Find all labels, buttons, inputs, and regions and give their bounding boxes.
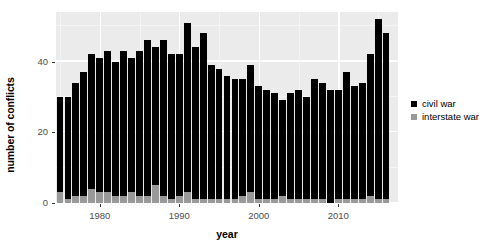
bar-segment-civil-war: [263, 90, 270, 200]
bar-group: [271, 93, 278, 203]
bar-segment-civil-war: [65, 97, 72, 200]
bar-segment-civil-war: [208, 65, 215, 199]
bar-segment-interstate-war: [136, 196, 143, 203]
bar-segment-civil-war: [327, 90, 334, 203]
bar-segment-civil-war: [184, 23, 191, 193]
bar-segment-interstate-war: [128, 192, 135, 203]
bar-segment-civil-war: [120, 51, 127, 196]
bar-group: [319, 83, 326, 203]
plot-panel: [56, 12, 398, 203]
legend-swatch-civil-war-key: [408, 98, 419, 109]
x-tick-mark: [338, 204, 339, 207]
bar-segment-interstate-war: [208, 199, 215, 203]
bar-segment-civil-war: [335, 90, 342, 200]
bar-group: [279, 100, 286, 203]
bar-segment-interstate-war: [120, 196, 127, 203]
bar-segment-civil-war: [319, 83, 326, 200]
bar-group: [224, 76, 231, 203]
y-tick-mark: [52, 203, 55, 204]
y-tick-mark: [52, 62, 55, 63]
bar-group: [359, 83, 366, 203]
bar-segment-civil-war: [144, 40, 151, 196]
y-axis-title: number of conflicts: [2, 0, 18, 250]
bar-segment-civil-war: [152, 47, 159, 185]
bar-segment-interstate-war: [319, 199, 326, 203]
bar-segment-interstate-war: [359, 199, 366, 203]
bar-segment-interstate-war: [200, 199, 207, 203]
bar-group: [263, 90, 270, 203]
bar-segment-interstate-war: [216, 199, 223, 203]
bar-group: [343, 72, 350, 203]
bar-segment-interstate-war: [152, 185, 159, 203]
bar-group: [200, 33, 207, 203]
bar-segment-interstate-war: [96, 192, 103, 203]
bar-segment-interstate-war: [232, 199, 239, 203]
legend: civil war interstate war: [408, 97, 496, 123]
bar-segment-interstate-war: [57, 192, 64, 203]
bar-segment-interstate-war: [255, 199, 262, 203]
bar-group: [96, 58, 103, 203]
bar-group: [295, 90, 302, 203]
bar-segment-civil-war: [168, 54, 175, 199]
bar-group: [232, 79, 239, 203]
x-tick-label: 1990: [154, 210, 204, 221]
x-tick-label: 2000: [234, 210, 284, 221]
bar-segment-civil-war: [351, 86, 358, 199]
bar-group: [120, 51, 127, 203]
bar-segment-civil-war: [136, 51, 143, 196]
bar-segment-civil-war: [128, 58, 135, 192]
bar-group: [351, 86, 358, 203]
bar-group: [160, 40, 167, 203]
bar-segment-interstate-war: [88, 189, 95, 203]
x-tick-label: 1980: [75, 210, 125, 221]
bar-group: [216, 69, 223, 203]
bar-segment-interstate-war: [295, 199, 302, 203]
bar-segment-civil-war: [383, 33, 390, 199]
legend-item-civil-war: civil war: [408, 97, 496, 110]
x-tick-label: 2010: [313, 210, 363, 221]
bar-segment-civil-war: [80, 72, 87, 196]
bar-segment-civil-war: [359, 83, 366, 200]
bar-segment-interstate-war: [287, 199, 294, 203]
bar-segment-civil-war: [176, 54, 183, 195]
y-tick-label: 20: [6, 126, 48, 137]
bar-segment-interstate-war: [72, 196, 79, 203]
bar-segment-interstate-war: [279, 196, 286, 203]
bar-segment-civil-war: [279, 100, 286, 196]
bar-segment-civil-war: [295, 90, 302, 200]
bar-group: [136, 51, 143, 203]
bar-segment-civil-war: [96, 58, 103, 192]
bar-segment-civil-war: [287, 93, 294, 199]
bar-group: [192, 47, 199, 203]
bar-group: [184, 23, 191, 203]
bar-segment-interstate-war: [104, 192, 111, 203]
bar-group: [176, 54, 183, 203]
bar-segment-interstate-war: [383, 199, 390, 203]
bar-segment-civil-war: [247, 65, 254, 192]
bar-segment-civil-war: [343, 72, 350, 199]
bar-segment-interstate-war: [303, 199, 310, 203]
bar-segment-interstate-war: [367, 196, 374, 203]
bar-group: [375, 19, 382, 203]
bar-segment-interstate-war: [224, 199, 231, 203]
bar-group: [88, 54, 95, 203]
x-tick-mark: [179, 204, 180, 207]
square-icon: [411, 114, 417, 120]
bar-segment-interstate-war: [239, 196, 246, 203]
bar-segment-interstate-war: [112, 196, 119, 203]
bar-segment-interstate-war: [271, 199, 278, 203]
bar-segment-civil-war: [255, 86, 262, 199]
bar-group: [152, 47, 159, 203]
bar-segment-civil-war: [271, 93, 278, 199]
bar-group: [335, 90, 342, 203]
y-tick-label: 40: [6, 56, 48, 67]
bar-segment-interstate-war: [168, 199, 175, 203]
bar-group: [303, 97, 310, 203]
bar-group: [168, 54, 175, 203]
bar-segment-interstate-war: [65, 199, 72, 203]
bar-segment-interstate-war: [335, 199, 342, 203]
bar-segment-civil-war: [72, 83, 79, 196]
square-icon: [411, 101, 417, 107]
bar-segment-civil-war: [160, 40, 167, 196]
bar-group: [311, 79, 318, 203]
